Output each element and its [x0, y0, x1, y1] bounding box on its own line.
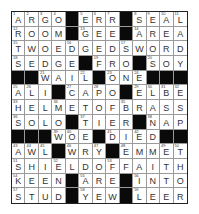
grid-cell[interactable]: R: [147, 27, 160, 42]
grid-cell[interactable]: I: [39, 85, 52, 100]
grid-cell[interactable]: E: [93, 188, 106, 203]
grid-cell[interactable]: 40O: [66, 130, 79, 145]
grid-cell[interactable]: R: [93, 174, 106, 189]
grid-cell[interactable]: 6R: [93, 12, 106, 27]
grid-cell[interactable]: 54K: [12, 174, 25, 189]
grid-cell[interactable]: R: [160, 41, 173, 56]
grid-cell[interactable]: 52E: [52, 159, 65, 174]
grid-cell[interactable]: 20S: [147, 56, 160, 71]
grid-cell[interactable]: 19F: [93, 56, 106, 71]
grid-cell[interactable]: 37T: [79, 115, 92, 130]
grid-cell[interactable]: E: [106, 27, 119, 42]
grid-cell[interactable]: I: [93, 115, 106, 130]
grid-cell[interactable]: L: [66, 159, 79, 174]
grid-cell[interactable]: 39W: [52, 130, 65, 145]
grid-cell[interactable]: A: [52, 71, 65, 86]
grid-cell[interactable]: F: [106, 100, 119, 115]
grid-cell[interactable]: 8S: [133, 12, 146, 27]
grid-cell[interactable]: 38N: [147, 115, 160, 130]
grid-cell[interactable]: N: [147, 174, 160, 189]
grid-cell[interactable]: I: [147, 159, 160, 174]
grid-cell[interactable]: 53F: [106, 159, 119, 174]
grid-cell[interactable]: E: [79, 130, 92, 145]
grid-cell[interactable]: 25A: [12, 85, 25, 100]
grid-cell[interactable]: 57S: [12, 188, 25, 203]
grid-cell[interactable]: 51S: [12, 159, 25, 174]
grid-cell[interactable]: W: [133, 41, 146, 56]
grid-cell[interactable]: I: [39, 159, 52, 174]
grid-cell[interactable]: O: [160, 56, 173, 71]
grid-cell[interactable]: 34M: [52, 100, 65, 115]
grid-cell[interactable]: A: [133, 159, 146, 174]
grid-cell[interactable]: 11L: [174, 12, 187, 27]
grid-cell[interactable]: D: [52, 188, 65, 203]
grid-cell[interactable]: O: [25, 27, 38, 42]
grid-cell[interactable]: R: [120, 115, 133, 130]
grid-cell[interactable]: D: [147, 130, 160, 145]
grid-cell[interactable]: E: [160, 188, 173, 203]
grid-cell[interactable]: 32E: [174, 85, 187, 100]
grid-cell[interactable]: E: [66, 56, 79, 71]
grid-cell[interactable]: O: [174, 174, 187, 189]
grid-cell[interactable]: 50T: [174, 144, 187, 159]
grid-cell[interactable]: 10A: [160, 12, 173, 27]
grid-cell[interactable]: D: [39, 56, 52, 71]
grid-cell[interactable]: D: [106, 41, 119, 56]
grid-cell[interactable]: 3G: [39, 12, 52, 27]
grid-cell[interactable]: E: [25, 174, 38, 189]
grid-cell[interactable]: 7R: [106, 12, 119, 27]
grid-cell[interactable]: E: [106, 115, 119, 130]
grid-cell[interactable]: 56I: [133, 174, 146, 189]
grid-cell[interactable]: M: [52, 27, 65, 42]
grid-cell[interactable]: 49E: [160, 144, 173, 159]
grid-cell[interactable]: O: [106, 85, 119, 100]
grid-cell[interactable]: 13G: [79, 27, 92, 42]
grid-cell[interactable]: L: [39, 100, 52, 115]
grid-cell[interactable]: R: [174, 188, 187, 203]
grid-cell[interactable]: S: [160, 100, 173, 115]
grid-cell[interactable]: Y: [174, 56, 187, 71]
grid-cell[interactable]: L: [39, 115, 52, 130]
grid-cell[interactable]: E: [25, 100, 38, 115]
grid-cell[interactable]: I: [120, 130, 133, 145]
grid-cell[interactable]: O: [147, 41, 160, 56]
grid-cell[interactable]: W: [25, 41, 38, 56]
grid-cell[interactable]: 42E: [133, 130, 146, 145]
grid-cell[interactable]: A: [147, 100, 160, 115]
grid-cell[interactable]: T: [25, 188, 38, 203]
grid-cell[interactable]: E: [66, 100, 79, 115]
grid-cell[interactable]: T: [79, 100, 92, 115]
grid-cell[interactable]: 35B: [120, 100, 133, 115]
grid-cell[interactable]: 47Y: [93, 144, 106, 159]
grid-cell[interactable]: H: [25, 159, 38, 174]
grid-cell[interactable]: O: [120, 56, 133, 71]
grid-cell[interactable]: 27C: [66, 85, 79, 100]
grid-cell[interactable]: D: [174, 41, 187, 56]
grid-cell[interactable]: O: [93, 100, 106, 115]
grid-cell[interactable]: G: [79, 41, 92, 56]
grid-cell[interactable]: 55A: [79, 174, 92, 189]
grid-cell[interactable]: 44W: [25, 144, 38, 159]
grid-cell[interactable]: G: [52, 56, 65, 71]
grid-cell[interactable]: M: [133, 144, 146, 159]
grid-cell[interactable]: 31B: [160, 85, 173, 100]
grid-cell[interactable]: O: [93, 159, 106, 174]
grid-cell[interactable]: 2R: [25, 12, 38, 27]
grid-cell[interactable]: 9E: [147, 12, 160, 27]
grid-cell[interactable]: N: [52, 174, 65, 189]
grid-cell[interactable]: E: [39, 174, 52, 189]
grid-cell[interactable]: 4O: [52, 12, 65, 27]
grid-cell[interactable]: 58Y: [79, 188, 92, 203]
grid-cell[interactable]: A: [79, 85, 92, 100]
grid-cell[interactable]: U: [39, 188, 52, 203]
grid-cell[interactable]: 14A: [133, 27, 146, 42]
grid-cell[interactable]: E: [93, 27, 106, 42]
grid-cell[interactable]: 45L: [39, 144, 52, 159]
grid-cell[interactable]: 26L: [25, 85, 38, 100]
grid-cell[interactable]: T: [160, 174, 173, 189]
grid-cell[interactable]: 46W: [66, 144, 79, 159]
grid-cell[interactable]: 23O: [106, 71, 119, 86]
grid-cell[interactable]: S: [174, 100, 187, 115]
grid-cell[interactable]: E: [147, 188, 160, 203]
grid-cell[interactable]: R: [133, 100, 146, 115]
